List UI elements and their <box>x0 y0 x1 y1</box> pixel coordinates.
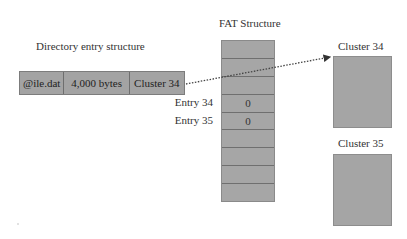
pointer-arrow <box>0 0 407 239</box>
artifact-dot <box>17 223 19 225</box>
